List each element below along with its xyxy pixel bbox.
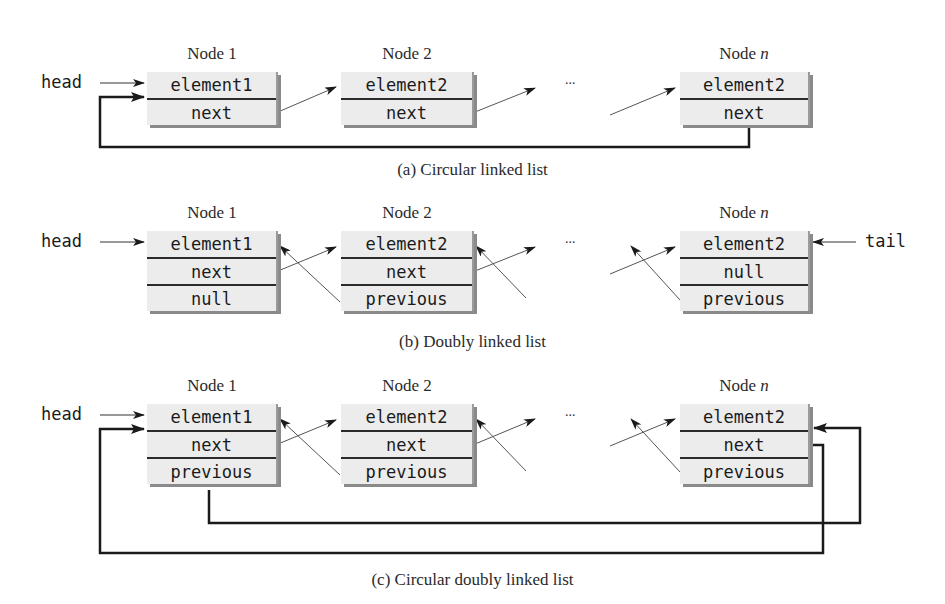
ellipsis: ... <box>565 72 576 88</box>
element-field: element2 <box>341 231 472 257</box>
next-arrow-1-2 <box>278 420 336 444</box>
caption-c: (c) Circular doubly linked list <box>0 570 945 590</box>
caption-b: (b) Doubly linked list <box>0 332 945 352</box>
previous-field: previous <box>341 284 472 311</box>
next-arrow-dots-n <box>610 419 675 446</box>
next-field: null <box>680 257 808 284</box>
next-field: next <box>680 430 808 457</box>
element-field: element2 <box>341 404 472 430</box>
previous-field: previous <box>680 284 808 311</box>
node-2-title: Node 2 <box>337 376 477 396</box>
previous-field: previous <box>680 457 808 484</box>
node-n-title: Node n <box>674 376 814 396</box>
next-field: next <box>341 257 472 284</box>
next-arrow-2-dots <box>475 419 535 444</box>
node-2: element2 next previous <box>341 404 474 484</box>
element-field: element1 <box>147 231 276 257</box>
node-1-title: Node 1 <box>142 44 282 64</box>
element-field: element1 <box>147 404 276 430</box>
next-arrow-dots-n <box>610 247 675 274</box>
next-arrow-2-dots <box>475 88 535 112</box>
next-arrow-dots-n <box>610 88 675 115</box>
node-1-title: Node 1 <box>142 376 282 396</box>
next-field: next <box>147 98 276 125</box>
ellipsis: ... <box>565 231 576 247</box>
ellipsis: ... <box>565 404 576 420</box>
previous-field: previous <box>341 457 472 484</box>
node-n: element2 next <box>680 72 810 125</box>
next-field: next <box>147 257 276 284</box>
element-field: element2 <box>680 404 808 430</box>
head-label: head <box>41 404 82 424</box>
next-field: next <box>341 98 472 125</box>
node-1: element1 next previous <box>147 404 278 484</box>
element-field: element2 <box>341 72 472 98</box>
prev-arrow-n-dots <box>631 246 680 300</box>
node-n: element2 next previous <box>680 404 810 484</box>
previous-field: previous <box>147 457 276 484</box>
head-label: head <box>41 72 82 92</box>
next-field: next <box>341 430 472 457</box>
element-field: element2 <box>680 231 808 257</box>
next-field: next <box>680 98 808 125</box>
element-field: element2 <box>680 72 808 98</box>
prev-arrow-2-1 <box>280 419 340 475</box>
node-2: element2 next previous <box>341 231 474 311</box>
next-arrow-2-dots <box>475 247 535 271</box>
head-label: head <box>41 231 82 251</box>
node-n-title: Node n <box>674 203 814 223</box>
node-2-title: Node 2 <box>337 203 477 223</box>
previous-field: null <box>147 284 276 311</box>
node-n-title: Node n <box>674 44 814 64</box>
linked-list-diagram: head Node 1 element1 next Node 2 element… <box>0 0 945 604</box>
next-field: next <box>147 430 276 457</box>
element-field: element1 <box>147 72 276 98</box>
prev-arrow-dots-2 <box>476 419 526 471</box>
node-n: element2 null previous <box>680 231 810 311</box>
node-1: element1 next null <box>147 231 278 311</box>
next-arrow-1-2 <box>278 87 336 112</box>
caption-a: (a) Circular linked list <box>0 160 945 180</box>
node-1: element1 next <box>147 72 278 125</box>
next-arrow-1-2 <box>278 247 336 271</box>
node-2: element2 next <box>341 72 474 125</box>
node-2-title: Node 2 <box>337 44 477 64</box>
tail-label: tail <box>865 231 906 251</box>
node-1-title: Node 1 <box>142 203 282 223</box>
prev-arrow-2-1 <box>280 246 340 302</box>
